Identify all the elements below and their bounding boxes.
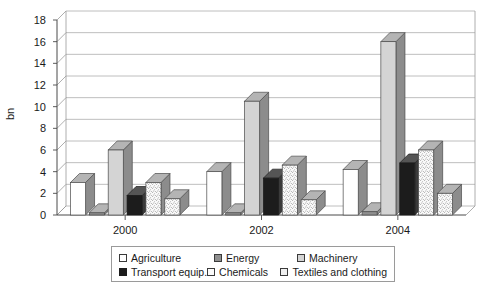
- x-tick-label: 2000: [113, 224, 137, 236]
- legend-label: Energy: [226, 252, 259, 264]
- legend-item-textiles-and-clothing: Textiles and clothing: [280, 266, 387, 278]
- legend-row: Agriculture Energy Machinery: [119, 251, 387, 265]
- legend-item-chemicals: Chemicals: [207, 266, 280, 278]
- legend-label: Textiles and clothing: [292, 266, 387, 278]
- legend-label: Agriculture: [131, 252, 181, 264]
- legend-swatch-icon: [297, 254, 305, 262]
- legend-swatch-icon: [119, 254, 127, 262]
- legend-row: Transport equip. Chemicals Textiles and …: [119, 265, 387, 279]
- legend-label: Transport equip.: [131, 266, 207, 278]
- legend-label: Chemicals: [219, 266, 268, 278]
- bar-agriculture-2000: [70, 174, 94, 216]
- bar-chart: bn 024681012141618 200020022004 Agricult…: [0, 0, 492, 297]
- bar-agriculture-2002: [207, 163, 231, 215]
- legend-item-energy: Energy: [214, 252, 297, 264]
- chart-legend: Agriculture Energy Machinery Transport e…: [111, 246, 395, 282]
- legend-item-transport-equip: Transport equip.: [119, 266, 207, 278]
- legend-item-machinery: Machinery: [297, 252, 357, 264]
- legend-label: Machinery: [309, 252, 357, 264]
- x-tick-label: 2002: [249, 224, 273, 236]
- legend-swatch-icon: [207, 268, 215, 276]
- x-tick-label: 2004: [386, 224, 410, 236]
- bar-agriculture-2004: [343, 161, 367, 216]
- legend-item-agriculture: Agriculture: [119, 252, 214, 264]
- legend-swatch-icon: [119, 268, 127, 276]
- legend-swatch-icon: [280, 268, 288, 276]
- legend-swatch-icon: [214, 254, 222, 262]
